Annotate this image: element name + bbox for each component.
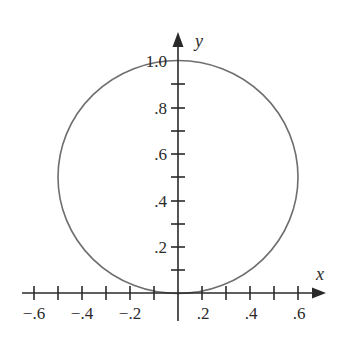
x-tick-label: .4 [245, 304, 258, 323]
x-tick-label: −.6 [23, 304, 45, 323]
y-tick-label: 1.0 [146, 52, 167, 71]
x-tick-label: −.4 [71, 304, 94, 323]
y-tick-label: .6 [154, 145, 167, 164]
x-tick-label: .6 [293, 304, 306, 323]
x-tick-label: .2 [197, 304, 210, 323]
y-tick-label: .8 [154, 99, 167, 118]
chart-canvas: −.6 −.4 −.2 .2 .4 .6 .2 .4 .6 .8 1.0 x y [0, 0, 354, 344]
y-axis [171, 32, 185, 321]
x-tick-label: −.2 [119, 304, 141, 323]
x-axis-label: x [315, 264, 324, 284]
y-tick-label: .4 [154, 192, 167, 211]
x-axis-arrow-icon [312, 288, 326, 299]
y-tick-label: .2 [154, 238, 167, 257]
y-axis-label: y [193, 31, 203, 51]
y-axis-arrow-icon [173, 32, 184, 47]
x-axis [22, 286, 326, 300]
